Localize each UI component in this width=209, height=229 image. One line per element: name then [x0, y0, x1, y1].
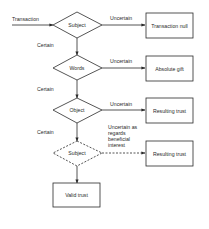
outcome-transaction-null: Transaction null [146, 13, 193, 38]
decision-subject-beneficial: Subject [53, 141, 102, 166]
edge-label-certain-1: Certain [37, 42, 54, 48]
decision-object: Object [53, 98, 102, 123]
outcome-absolute-gift: Absolute gift [146, 56, 193, 81]
decision-subject-label: Subject [68, 22, 86, 28]
decision-subject-beneficial-label: Subject [68, 150, 86, 156]
transaction-label: Transaction [12, 16, 39, 22]
outcome-valid-trust-label: Valid trust [65, 192, 88, 198]
edge-label-certain-3: Certain [37, 129, 54, 135]
outcome-resulting-trust-2-label: Resulting trust [153, 151, 187, 157]
edge-label-uncertain-3: Uncertain [110, 101, 132, 107]
edge-label-certain-2: Certain [37, 86, 54, 92]
outcome-valid-trust: Valid trust [53, 183, 100, 207]
outcome-absolute-gift-label: Absolute gift [155, 66, 184, 72]
edge-label-uncertain-beneficial: Uncertain as regards beneficial interest [108, 124, 138, 148]
decision-words-label: Words [70, 65, 85, 71]
decision-subject: Subject [53, 12, 102, 38]
outcome-resulting-trust-1-label: Resulting trust [153, 108, 187, 114]
outcome-resulting-trust-1: Resulting trust [146, 98, 193, 123]
outcome-resulting-trust-2: Resulting trust [146, 141, 193, 166]
decision-words: Words [53, 55, 102, 80]
edge-label-uncertain-1: Uncertain [110, 15, 132, 21]
edge-label-line-4: interest [108, 142, 126, 148]
flowchart: Transaction Subject Uncertain Transactio… [0, 0, 209, 229]
edge-label-uncertain-2: Uncertain [110, 58, 132, 64]
outcome-transaction-null-label: Transaction null [151, 23, 187, 29]
decision-object-label: Object [70, 107, 86, 113]
